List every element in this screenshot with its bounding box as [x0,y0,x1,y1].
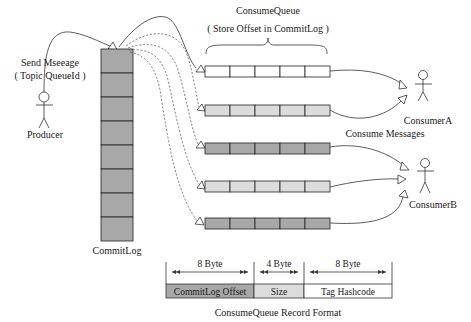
consumequeue-cell [255,218,280,229]
consumequeue-cell [305,181,330,192]
consumequeue-subtitle: ( Store Offset in CommitLog ) [207,23,329,35]
consumequeue-brace [206,38,327,54]
record-format-title: ConsumeQueue Record Format [215,307,342,318]
arrowhead-right-icon [290,270,294,274]
consumequeue-cell [305,105,330,116]
producer-label: Producer [27,129,64,140]
consumequeue-cell [280,105,305,116]
consume-messages-label: Consume Messages [345,128,424,139]
record-format-table: CommitLog Offset8 ByteSize4 ByteTag Hash… [166,259,392,298]
topic-queueid-label: ( Topic QueueId ) [14,70,85,82]
consumequeue-cell [205,218,230,229]
arrowhead-right-icon [244,270,248,274]
consumerA-arrowhead-1 [399,80,407,89]
queue1-arrowhead [196,65,205,72]
send-message-label: Send Mseeage [21,57,80,68]
rocketmq-storage-diagram: Send Mseeage ( Topic QueueId ) Producer … [0,0,471,322]
arrowhead-right-icon [294,270,298,274]
arrowhead-right-icon [240,270,244,274]
consumequeue-cell [280,143,305,154]
arrowhead-left-icon [314,270,318,274]
consumequeue-row [205,66,330,77]
arrowhead-right-icon [378,270,382,274]
consumequeue-cell [280,218,305,229]
arrowhead-left-icon [264,270,268,274]
consumequeue-list [205,66,330,229]
consumequeue-cell [255,105,280,116]
consumerB-label: ConsumerB [409,199,457,210]
commitlog-to-queue4-arrow [129,50,199,184]
consumequeue-cell [305,66,330,77]
consumequeue-cell [230,181,255,192]
commitlog-cell [101,49,133,73]
consumerA-label: ConsumerA [404,115,453,126]
consumerB-actor-icon [417,159,434,194]
commitlog-cell [101,97,133,121]
queue5-arrowhead [195,217,204,225]
consumequeue-cell [255,143,280,154]
commitlog-label: CommitLog [93,245,142,256]
consumequeue-cell [230,143,255,154]
consumequeue-cell [205,105,230,116]
consumerB-arrowhead-1 [400,162,409,170]
commitlog-to-queue2-arrow [126,34,199,107]
producer-actor-icon [36,92,53,128]
commitlog-to-queue5-arrow [130,52,197,221]
record-field-size: 8 Byte [335,259,360,269]
commitlog-cell [101,121,133,145]
commitlog-cell [101,169,133,193]
commitlog-cell [101,145,133,169]
consumequeue-cell [205,143,230,154]
queue3-to-consumerB-arrow [330,146,404,166]
queue4-to-consumerB-arrow [330,179,399,187]
consumequeue-row [205,105,330,116]
record-field-name: Tag Hashcode [321,287,375,297]
commitlog-cell [101,193,133,217]
consumequeue-row [205,218,330,229]
queue1-to-consumerA-arrow [330,70,402,84]
consumequeue-cell [280,66,305,77]
consumequeue-cell [305,218,330,229]
consumequeue-cell [205,66,230,77]
record-field-name: CommitLog Offset [174,287,247,297]
queue4-arrowhead [197,181,205,189]
arrowhead-left-icon [260,270,264,274]
consumequeue-cell [255,181,280,192]
arrowhead-left-icon [172,270,176,274]
arrowhead-left-icon [176,270,180,274]
record-field-size: 8 Byte [197,259,222,269]
consumequeue-row [205,181,330,192]
arrowhead-left-icon [310,270,314,274]
queue2-to-consumerA-arrow [330,100,402,118]
consumequeue-cell [230,218,255,229]
commitlog-to-queue3-arrow [128,44,198,144]
consumequeue-row [205,143,330,154]
queue2-arrowhead [197,104,205,111]
commitlog-cell [101,217,133,241]
queue5-to-consumerB-arrow [330,196,403,223]
consumerB-arrowhead-3 [399,190,408,198]
consumequeue-cell [205,181,230,192]
record-field-name: Size [271,287,287,297]
consumequeue-cell [230,66,255,77]
consumerB-arrowhead-2 [398,175,406,184]
commitlog-column [101,49,133,241]
record-field-size: 4 Byte [266,259,291,269]
consumequeue-cell [305,143,330,154]
arrowhead-right-icon [382,270,386,274]
commitlog-cell [101,73,133,97]
consumequeue-cell [280,181,305,192]
consumequeue-cell [230,105,255,116]
consumequeue-title: ConsumeQueue [236,5,300,16]
consumequeue-cell [255,66,280,77]
consumerA-actor-icon [415,71,432,102]
